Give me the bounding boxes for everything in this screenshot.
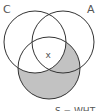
venn-diagram: C A x S = WHT — [0, 0, 98, 111]
center-mark: x — [46, 50, 52, 60]
label-a: A — [87, 3, 95, 16]
caption: S = WHT — [55, 106, 96, 111]
label-c: C — [3, 3, 11, 16]
